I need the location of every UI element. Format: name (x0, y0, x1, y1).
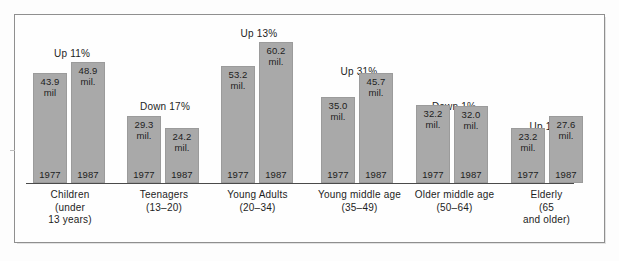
bar-4-1977: 32.2mil. 1977 (416, 105, 450, 183)
bar-1-1987: 24.2mil. 1987 (165, 128, 199, 183)
bar-year-2-1987: 1987 (260, 169, 292, 180)
bar-2-1987: 60.2mil. 1987 (259, 42, 293, 183)
bar-value-1-1987: 24.2mil. (166, 132, 198, 153)
group-delta-0: Up 11% (24, 48, 120, 59)
category-label-2: Young Adults (20–34) (205, 189, 310, 214)
bar-value-4-1987: 32.0mil. (455, 110, 487, 131)
bar-value-4-1977: 32.2mil. (417, 109, 449, 130)
bar-3-1977: 35.0mil. 1977 (321, 97, 355, 183)
bar-value-3-1977: 35.0mil. (322, 101, 354, 122)
bar-0-1987: 48.9mil. 1987 (71, 62, 105, 183)
bar-value-2-1987: 60.2mil. (260, 46, 292, 67)
bar-1-1977: 29.3mil. 1977 (127, 116, 161, 183)
axis-baseline (26, 183, 574, 184)
bar-year-3-1977: 1977 (322, 169, 354, 180)
bar-5-1977: 23.2mil. 1977 (511, 128, 545, 183)
bar-year-5-1977: 1977 (512, 169, 544, 180)
bar-value-5-1987: 27.6mil. (550, 120, 582, 141)
bar-year-3-1987: 1987 (360, 169, 392, 180)
category-label-1: Teenagers (13–20) (114, 189, 214, 214)
bar-year-0-1987: 1987 (72, 169, 104, 180)
bar-value-3-1987: 45.7mil. (360, 77, 392, 98)
bar-year-1-1987: 1987 (166, 169, 198, 180)
bar-value-0-1977: 43.9mil (34, 77, 66, 98)
chart-root: Up 11% 43.9mil 1977 48.9mil. 1987 Childr… (0, 0, 619, 261)
bar-year-2-1977: 1977 (222, 169, 254, 180)
bar-year-4-1977: 1977 (417, 169, 449, 180)
group-delta-2: Up 13% (211, 28, 307, 39)
category-label-0: Children (under 13 years) (20, 189, 120, 227)
bar-chart-plot-area: Up 11% 43.9mil 1977 48.9mil. 1987 Childr… (0, 0, 619, 261)
bar-5-1987: 27.6mil. 1987 (549, 116, 583, 183)
bar-value-1-1977: 29.3mil. (128, 120, 160, 141)
category-label-5: Elderly (65 and older) (494, 189, 599, 227)
bar-value-0-1987: 48.9mil. (72, 66, 104, 87)
bar-0-1977: 43.9mil 1977 (33, 73, 67, 183)
bar-4-1987: 32.0mil. 1987 (454, 106, 488, 183)
bar-year-4-1987: 1987 (455, 169, 487, 180)
bar-3-1987: 45.7mil. 1987 (359, 73, 393, 183)
bar-year-1-1977: 1977 (128, 169, 160, 180)
bar-year-0-1977: 1977 (34, 169, 66, 180)
bar-2-1977: 53.2mil. 1977 (221, 66, 255, 183)
bar-year-5-1987: 1987 (550, 169, 582, 180)
group-delta-1: Down 17% (117, 101, 213, 112)
bar-value-5-1977: 23.2mil. (512, 132, 544, 153)
bar-value-2-1977: 53.2mil. (222, 70, 254, 91)
